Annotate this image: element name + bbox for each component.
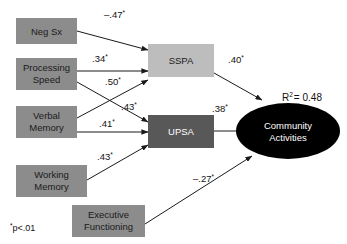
- coef-processing-speed-upsa: .43*: [121, 101, 137, 113]
- node-community-activities-label-line2: Activities: [269, 132, 307, 143]
- node-executive-functioning-label-line2: Functioning: [84, 221, 133, 232]
- node-community-activities-label-line1: Community: [264, 120, 312, 131]
- node-verbal-memory-label-line1: Verbal: [33, 110, 60, 121]
- edge-sspa-to-community-activities: [214, 73, 262, 100]
- coef-processing-speed-sspa: .34*: [92, 53, 108, 65]
- node-processing-speed: Processing Speed: [16, 58, 77, 90]
- path-diagram-figure: Neg Sx Processing Speed Verbal Memory Wo…: [0, 0, 347, 244]
- coef-neg-sx-sspa: –.47*: [104, 9, 126, 21]
- coef-upsa-community: .38*: [212, 103, 228, 115]
- coef-sspa-community: .40*: [228, 54, 244, 66]
- node-processing-speed-label-line1: Processing: [23, 62, 70, 73]
- node-upsa-label: UPSA: [168, 126, 195, 137]
- diagram-canvas: Neg Sx Processing Speed Verbal Memory Wo…: [0, 0, 347, 244]
- node-verbal-memory: Verbal Memory: [16, 106, 77, 138]
- coefficient-label-group: –.47* .34* .50* .43* .41* .43* .40* .38*…: [92, 9, 244, 185]
- node-community-activities: Community Activities: [236, 103, 340, 159]
- node-sspa: SSPA: [148, 44, 214, 77]
- node-neg-sx-label: Neg Sx: [31, 26, 62, 37]
- coef-verbal-memory-upsa: .41*: [99, 118, 115, 130]
- node-upsa: UPSA: [148, 115, 214, 148]
- node-verbal-memory-label-line2: Memory: [29, 122, 64, 133]
- edge-processing-speed-to-upsa: [77, 82, 148, 122]
- node-executive-functioning-label-line1: Executive: [88, 209, 129, 220]
- r-squared-label: R2= 0.48: [282, 91, 322, 103]
- edge-executive-functioning-to-community-activities: [145, 156, 252, 224]
- coef-working-memory-upsa: .43*: [97, 151, 113, 163]
- node-working-memory-label-line2: Memory: [34, 181, 69, 192]
- node-neg-sx: Neg Sx: [16, 18, 77, 44]
- edge-neg-sx-to-sspa: [77, 31, 148, 50]
- node-working-memory: Working Memory: [16, 165, 87, 197]
- node-processing-speed-label-line2: Speed: [33, 74, 60, 85]
- coef-verbal-memory-sspa: .50*: [105, 76, 121, 88]
- significance-footnote: *p<.01: [10, 222, 35, 234]
- node-sspa-label: SSPA: [169, 55, 194, 66]
- node-working-memory-label-line1: Working: [34, 169, 69, 180]
- node-executive-functioning: Executive Functioning: [72, 205, 145, 237]
- coef-executive-functioning-community: –.27*: [193, 173, 215, 185]
